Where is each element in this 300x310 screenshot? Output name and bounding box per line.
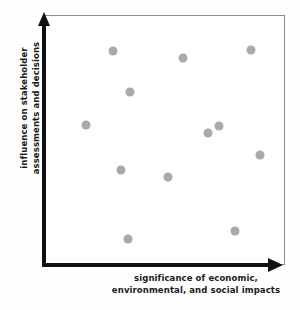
data-point — [178, 53, 187, 62]
data-point — [214, 122, 223, 131]
x-axis-arrow-icon — [268, 258, 283, 272]
y-axis-label-line-2: assessments and decisions — [30, 18, 42, 198]
data-point — [109, 46, 118, 55]
data-point — [123, 234, 132, 243]
plot-area — [45, 16, 284, 264]
y-axis-line — [42, 24, 46, 267]
materiality-matrix-chart: influence on stakeholder assessments and… — [0, 0, 300, 310]
y-axis-label-line-1: influence on stakeholder — [18, 18, 30, 198]
data-point — [164, 172, 173, 181]
data-point — [126, 87, 135, 96]
x-axis-label-line-1: significance of economic, — [100, 272, 292, 284]
data-point — [203, 129, 212, 138]
x-axis-line — [42, 263, 271, 267]
x-axis-label-line-2: environmental, and social impacts — [100, 284, 292, 296]
data-point — [117, 165, 126, 174]
data-point — [231, 227, 240, 236]
x-axis-label: significance of economic, environmental,… — [100, 272, 292, 296]
y-axis-label: influence on stakeholder assessments and… — [18, 18, 42, 198]
data-point — [82, 121, 91, 130]
data-point — [255, 150, 264, 159]
data-point — [247, 45, 256, 54]
